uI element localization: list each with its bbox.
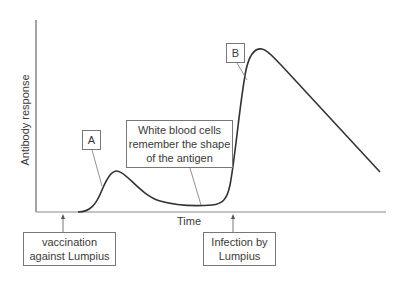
memory-annotation: White blood cells remember the shape of … (126, 120, 233, 168)
infection-annotation: Infection by Lumpius (203, 232, 276, 266)
label-a: A (82, 130, 101, 150)
label-b: B (226, 43, 245, 63)
leader-memory (190, 168, 201, 205)
vaccination-arrowhead-icon (61, 214, 65, 219)
y-axis-label: Antibody response (19, 74, 31, 165)
leader-a (92, 150, 102, 186)
infection-arrowhead-icon (231, 214, 235, 219)
vaccination-annotation: vaccination against Lumpius (23, 232, 116, 266)
x-axis-label: Time (172, 215, 206, 228)
